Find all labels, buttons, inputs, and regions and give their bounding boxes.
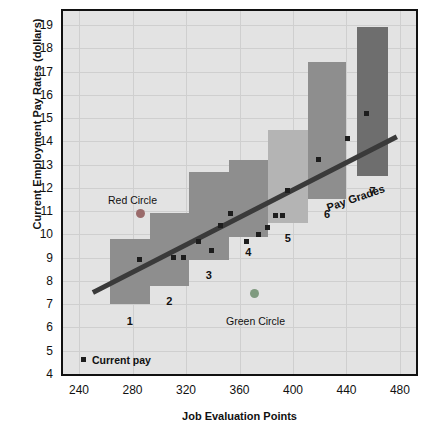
current-pay-marker	[244, 239, 249, 244]
x-axis-title: Job Evaluation Points	[61, 410, 418, 422]
y-axis-tick-label: 11	[0, 205, 53, 217]
x-axis-tick-label: 360	[215, 384, 265, 396]
current-pay-marker	[345, 136, 350, 141]
x-axis-tick-label: 400	[268, 384, 318, 396]
chart-legend: Current pay	[81, 355, 151, 366]
current-pay-marker	[171, 255, 176, 260]
y-axis-tick-label: 12	[0, 182, 53, 194]
x-axis-tick-label: 320	[161, 384, 211, 396]
pay-grade-number: 3	[206, 270, 212, 281]
current-pay-marker	[218, 223, 223, 228]
y-axis-tick-label: 5	[0, 345, 53, 357]
y-axis-tick-label: 18	[0, 42, 53, 54]
current-pay-marker	[280, 213, 285, 218]
current-pay-marker	[273, 213, 278, 218]
x-axis-tick-label: 480	[375, 384, 425, 396]
pay-grade-number: 1	[127, 316, 133, 327]
y-axis-tick-label: 8	[0, 275, 53, 287]
y-axis-tick-label: 13	[0, 159, 53, 171]
gridline-horizontal	[63, 374, 416, 375]
pay-grade-number: 4	[245, 247, 251, 258]
current-pay-marker	[316, 157, 321, 162]
current-pay-marker	[256, 232, 261, 237]
current-pay-marker	[285, 188, 290, 193]
y-axis-tick-label: 19	[0, 19, 53, 31]
y-axis-tick-label: 16	[0, 89, 53, 101]
green-circle-marker	[250, 289, 259, 298]
x-axis-tick-label: 280	[108, 384, 158, 396]
annotation-green-circle: Green Circle	[226, 316, 285, 327]
y-axis-tick-label: 10	[0, 228, 53, 240]
legend-marker-icon	[81, 357, 86, 362]
legend-label-current-pay: Current pay	[92, 355, 151, 366]
current-pay-marker	[228, 211, 233, 216]
y-axis-tick-label: 4	[0, 368, 53, 380]
y-axis-tick-label: 15	[0, 112, 53, 124]
x-axis-tick-label: 440	[321, 384, 371, 396]
y-axis-tick-label: 14	[0, 135, 53, 147]
pay-grade-number: 2	[166, 296, 172, 307]
y-axis-tick-label: 9	[0, 252, 53, 264]
annotation-red-circle: Red Circle	[108, 195, 157, 206]
y-axis-tick-label: 7	[0, 298, 53, 310]
current-pay-marker	[137, 257, 142, 262]
plot-area: 1234567 Red Circle Green Circle Pay Grad…	[61, 9, 418, 376]
current-pay-marker	[181, 255, 186, 260]
current-pay-marker	[209, 248, 214, 253]
x-axis-tick-label: 240	[54, 384, 104, 396]
chart-figure: Current Employment Pay Rates (dollars) 4…	[0, 0, 430, 434]
y-axis-tick-label: 6	[0, 321, 53, 333]
current-pay-marker	[265, 225, 270, 230]
pay-grade-number: 5	[285, 233, 291, 244]
current-pay-marker	[196, 239, 201, 244]
red-circle-marker	[136, 209, 145, 218]
current-pay-marker	[364, 111, 369, 116]
y-axis-tick-label: 17	[0, 66, 53, 78]
